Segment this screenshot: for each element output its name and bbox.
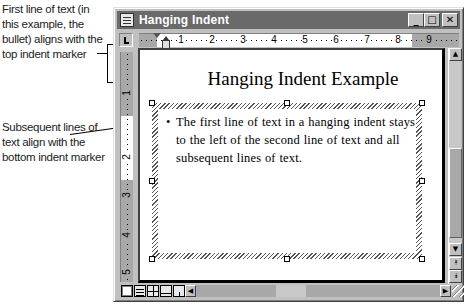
ruler-ticks	[139, 40, 459, 41]
ruler-number: 4	[271, 34, 277, 46]
vertical-ruler[interactable]: 1 2 3 4 5	[120, 52, 133, 282]
scroll-right-button[interactable]: ▶	[440, 285, 451, 297]
leader-top-horizontal	[97, 53, 107, 54]
scroll-down-button[interactable]: ▼	[449, 243, 462, 256]
ruler-number: 5	[302, 34, 308, 46]
vertical-ruler-ticks	[127, 52, 128, 282]
vertical-scroll-thumb[interactable]	[449, 148, 462, 238]
ruler-number: 9	[426, 34, 432, 46]
view-and-horizontal-scroll-row: ◀ ▶	[117, 285, 460, 298]
scroll-left-button[interactable]: ◀	[185, 285, 196, 297]
document-page[interactable]: Hanging Indent Example •The first line o…	[138, 48, 445, 283]
leader-top-vertical	[107, 44, 108, 82]
normal-view-button[interactable]	[121, 285, 133, 297]
bulleted-paragraph[interactable]: •The first line of text in a hanging ind…	[166, 113, 416, 167]
word-window: Hanging Indent _ □ ✕ 1 2 3 4 5 6 7 8 9 1…	[113, 7, 464, 302]
resize-handle-bottom-left[interactable]	[149, 256, 155, 262]
resize-handle-bottom-center[interactable]	[284, 256, 290, 262]
first-line-indent-marker-icon[interactable]	[153, 33, 161, 38]
text-box-frame[interactable]: •The first line of text in a hanging ind…	[152, 103, 422, 259]
vertical-ruler-number: 1	[122, 88, 132, 98]
maximize-button[interactable]: □	[424, 13, 440, 27]
horizontal-ruler-row: 1 2 3 4 5 6 7 8 9	[117, 31, 460, 49]
resize-handle-top-left[interactable]	[149, 100, 155, 106]
next-page-button[interactable]: ⯯	[449, 270, 462, 283]
scroll-up-button[interactable]: ▲	[449, 48, 462, 61]
ruler-number: 6	[333, 34, 339, 46]
resize-handle-bottom-right[interactable]	[419, 256, 425, 262]
resize-handle-middle-right[interactable]	[419, 178, 425, 184]
page-layout-view-button[interactable]	[147, 285, 159, 297]
callout-bottom-indent: Subsequent lines of text align with the …	[2, 120, 107, 165]
document-heading: Hanging Indent Example	[140, 68, 442, 90]
close-button[interactable]: ✕	[442, 13, 458, 27]
online-layout-view-button[interactable]	[160, 285, 172, 297]
document-icon[interactable]	[120, 13, 134, 27]
resize-handle-top-center[interactable]	[284, 100, 290, 106]
text-box-content[interactable]: •The first line of text in a hanging ind…	[158, 109, 416, 253]
vertical-ruler-number: 3	[122, 190, 132, 200]
ruler-number: 3	[240, 34, 246, 46]
outline-view-button[interactable]	[134, 285, 146, 297]
minimize-button[interactable]: _	[408, 13, 424, 27]
ruler-number: 2	[209, 34, 215, 46]
tab-selector-left-tab-icon[interactable]	[119, 33, 133, 47]
previous-page-button[interactable]: ⯭	[449, 257, 462, 270]
vertical-scrollbar[interactable]: ▲ ▼ ⯭ ⯯	[448, 48, 461, 284]
horizontal-scrollbar-track[interactable]	[196, 285, 440, 297]
ruler-number: 1	[178, 34, 184, 46]
callout-top-indent: First line of text (in this example, the…	[2, 2, 107, 62]
horizontal-ruler[interactable]: 1 2 3 4 5 6 7 8 9	[139, 33, 459, 47]
title-bar[interactable]: Hanging Indent _ □ ✕	[117, 11, 460, 29]
vertical-ruler-number: 2	[122, 152, 132, 162]
horizontal-scroll-thumb[interactable]	[276, 285, 306, 297]
bullet-icon: •	[166, 113, 176, 131]
paragraph-text: The first line of text in a hanging inde…	[176, 115, 415, 165]
ruler-number: 7	[364, 34, 370, 46]
presentation-view-button[interactable]	[173, 285, 185, 297]
resize-handle-middle-left[interactable]	[149, 178, 155, 184]
window-title: Hanging Indent	[139, 13, 229, 27]
vertical-ruler-number: 4	[122, 230, 132, 240]
vertical-ruler-number: 5	[122, 267, 132, 277]
resize-handle-top-right[interactable]	[419, 100, 425, 106]
size-grip-icon[interactable]	[452, 285, 464, 297]
ruler-number: 8	[395, 34, 401, 46]
